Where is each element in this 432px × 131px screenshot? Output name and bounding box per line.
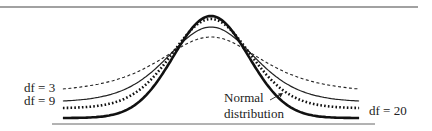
curve-df-3 [63, 37, 359, 89]
t-distribution-figure: df = 3 df = 9 df = 20 Normal distributio… [0, 0, 432, 131]
label-normal-line2: distribution [224, 106, 284, 121]
curve-df-20 [63, 19, 359, 108]
curve-df-9 [63, 27, 359, 101]
label-df-9: df = 9 [24, 93, 55, 108]
label-df-20: df = 20 [369, 103, 407, 118]
curve-normal [63, 16, 359, 118]
label-normal-line1: Normal [224, 90, 264, 105]
